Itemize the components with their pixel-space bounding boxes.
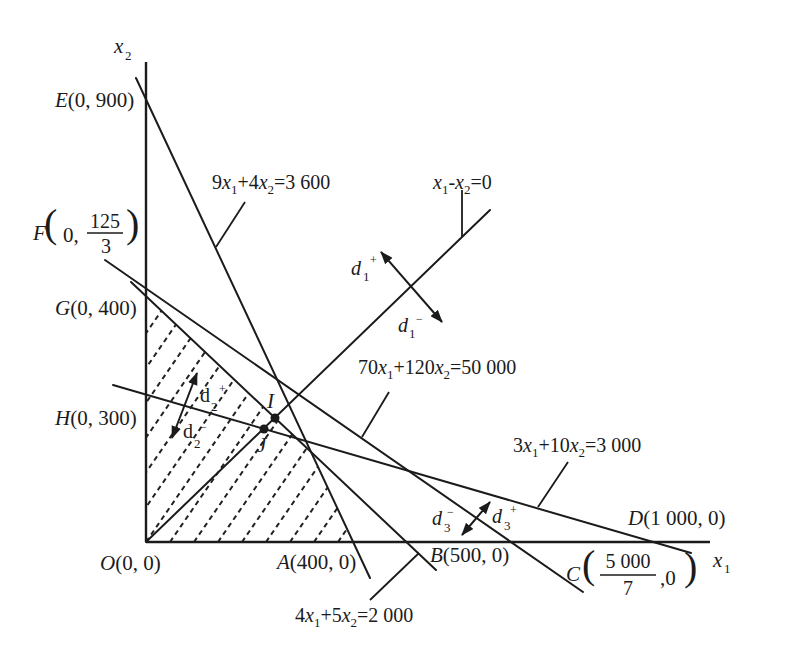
svg-text:7: 7: [623, 577, 633, 599]
hatch-line: [146, 252, 346, 542]
d3-plus-label: d 3 +: [492, 503, 517, 533]
equation-3x1-10x2-3000: 3x1+10x2=3 000: [513, 434, 641, 460]
svg-text:−: −: [416, 312, 423, 326]
equation-4x1-5x2-2000: 4x1+5x2=2 000: [295, 604, 413, 630]
hatch-line: [338, 252, 538, 542]
svg-text:d: d: [351, 257, 362, 279]
svg-text:d: d: [200, 384, 210, 406]
svg-text:1: 1: [724, 561, 731, 576]
point-b-label: B(500, 0): [430, 543, 509, 567]
svg-text:+: +: [510, 503, 517, 517]
point-h-label: H(0, 300): [54, 406, 137, 430]
goal-programming-diagram: x 2 x 1 E(0, 900) F ( 0, 125 3 ) G(0, 40…: [0, 0, 789, 665]
d2-minus-label: d 2 −: [183, 420, 207, 451]
point-i-label: I: [266, 389, 275, 413]
svg-text:(: (: [582, 542, 595, 587]
svg-text:3: 3: [444, 520, 451, 535]
svg-text:3: 3: [101, 235, 111, 257]
d1-plus-label: d 1 +: [351, 253, 377, 284]
point-i-marker: [271, 414, 280, 423]
leader-9x1-4x2: [216, 202, 245, 247]
svg-text:1: 1: [363, 269, 370, 284]
svg-text:d: d: [432, 507, 443, 529]
svg-text:): ): [126, 201, 139, 246]
svg-text:5 000: 5 000: [606, 550, 651, 572]
svg-text:x: x: [712, 548, 723, 572]
point-g-label: G(0, 400): [55, 296, 137, 320]
hatch-line: [194, 252, 394, 542]
svg-text:2: 2: [194, 436, 201, 451]
leader-70x1-120x2: [362, 392, 389, 437]
svg-text:0,: 0,: [63, 223, 79, 247]
line-3x1-10x2-3000: [113, 385, 691, 553]
hatch-line: [314, 252, 514, 542]
svg-text:1: 1: [409, 326, 416, 341]
d3-double-arrow-icon: [462, 502, 490, 535]
x1-axis-label: x 1: [712, 548, 731, 576]
svg-text:2: 2: [125, 48, 132, 63]
svg-text:(: (: [44, 201, 57, 246]
svg-text:+: +: [370, 253, 377, 267]
svg-text:−: −: [200, 420, 207, 434]
svg-text:125: 125: [90, 210, 120, 232]
x2-axis-label: x 2: [113, 34, 132, 63]
svg-text:d: d: [183, 420, 193, 442]
d1-double-arrow-icon: [381, 252, 442, 322]
d1-minus-label: d 1 −: [398, 312, 423, 341]
svg-text:d: d: [398, 314, 409, 336]
point-a-label: A(400, 0): [275, 550, 356, 574]
point-d-label: D(1 000, 0): [627, 506, 725, 530]
svg-text:3: 3: [504, 518, 511, 533]
svg-text:x: x: [113, 34, 124, 58]
equation-9x1-4x2-3600: 9x1+4x2=3 600: [212, 171, 330, 197]
svg-text:−: −: [447, 505, 454, 519]
equation-70x1-120x2-50000: 70x1+120x2=50 000: [358, 356, 516, 382]
svg-text:d: d: [492, 505, 503, 527]
svg-text:): ): [684, 544, 697, 589]
diagram-canvas: x 2 x 1 E(0, 900) F ( 0, 125 3 ) G(0, 40…: [0, 0, 789, 665]
point-c-label: C ( 5 000 7 ,0 ): [566, 542, 697, 599]
svg-text:2: 2: [211, 399, 218, 414]
svg-text:C: C: [566, 562, 581, 586]
svg-text:+: +: [219, 382, 226, 396]
d3-minus-label: d 3 −: [432, 505, 454, 535]
line-9x1-4x2-3600: [136, 78, 370, 578]
hatch-line: [290, 252, 490, 542]
svg-text:,0: ,0: [660, 566, 676, 590]
point-e-label: E(0, 900): [54, 88, 134, 112]
hatch-line: [218, 252, 418, 542]
leader-4x1-5x2: [370, 553, 419, 600]
leader-3x1-10x2: [538, 462, 568, 507]
point-f-label: F ( 0, 125 3 ): [32, 201, 139, 257]
point-o-label: O(0, 0): [100, 551, 161, 575]
